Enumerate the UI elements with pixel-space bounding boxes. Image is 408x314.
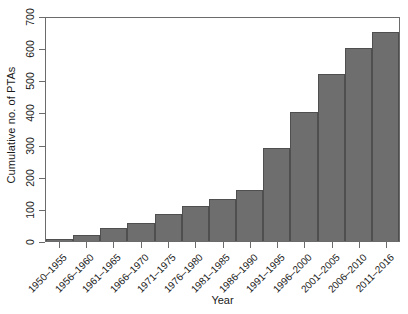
y-axis-tick-label: 500: [20, 75, 40, 87]
bar: [46, 239, 73, 241]
y-axis-tick-label-text: 300: [24, 136, 36, 156]
y-axis-tick-label: 400: [20, 107, 40, 119]
y-axis-tick-label: 0: [20, 236, 40, 248]
y-axis-tick-label-text: 600: [24, 39, 36, 59]
bar: [182, 206, 209, 241]
y-axis-tick-label: 200: [20, 172, 40, 184]
bar-series: [46, 18, 399, 241]
y-axis-tick-label-text: 0: [24, 232, 36, 252]
bar: [318, 74, 345, 241]
bar: [73, 235, 100, 241]
y-axis-tick-label-text: 500: [24, 71, 36, 91]
x-axis-tick-labels: 1950–19551956–19601961–19651966–19701971…: [45, 248, 400, 294]
bar: [290, 112, 317, 241]
bar: [345, 48, 372, 241]
y-axis-tick-label-text: 400: [24, 103, 36, 123]
bar: [236, 190, 263, 241]
cumulative-ptas-bar-chart: Cumulative no. of PTAs 01002003004005006…: [0, 0, 408, 314]
bar: [263, 148, 290, 241]
y-axis-tick-label: 600: [20, 43, 40, 55]
bar: [209, 199, 236, 241]
y-axis-tick-label-text: 200: [24, 168, 36, 188]
bar: [155, 214, 182, 241]
bar: [372, 32, 399, 241]
y-axis-tick-label: 300: [20, 140, 40, 152]
y-axis-tick-labels: 0100200300400500600700: [20, 12, 40, 248]
x-axis-title: Year: [45, 294, 400, 306]
y-axis-tick-label: 100: [20, 204, 40, 216]
bar: [127, 223, 154, 241]
y-axis-tick-label-text: 100: [24, 200, 36, 220]
bar: [100, 228, 127, 241]
y-axis-tick-label: 700: [20, 11, 40, 23]
y-axis-title-text: Cumulative no. of PTAs: [5, 67, 17, 184]
plot-area: [45, 17, 400, 242]
y-axis-tick-label-text: 700: [24, 7, 36, 27]
y-axis-title: Cumulative no. of PTAs: [0, 0, 22, 250]
